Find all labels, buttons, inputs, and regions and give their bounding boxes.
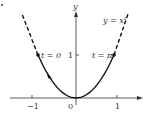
point-t0 <box>36 53 40 57</box>
point-label-t0: t = 0 <box>41 51 61 60</box>
x-tick-1: 1 <box>115 102 120 111</box>
y-tick-1: 1 <box>68 51 73 60</box>
point-tpi <box>112 53 116 57</box>
parabola-diagram: t = 0 t = π y = x² y 1 −1 0 1 <box>0 0 146 113</box>
x-tick-neg1: −1 <box>27 102 39 111</box>
y-axis-label: y <box>72 2 78 11</box>
direction-arrow-icon <box>47 72 52 79</box>
parabola-dashed-left <box>22 14 38 55</box>
y-axis <box>74 11 79 105</box>
curve-label: y = x² <box>102 16 127 25</box>
point-label-tpi: t = π <box>92 51 113 60</box>
corner-dot <box>1 4 3 6</box>
x-tick-0: 0 <box>68 102 73 111</box>
